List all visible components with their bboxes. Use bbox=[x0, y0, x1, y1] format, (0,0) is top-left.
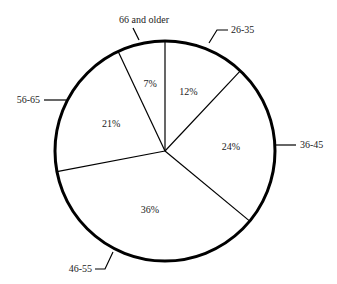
category-label: 46-55 bbox=[69, 263, 92, 274]
category-label: 66 and older bbox=[119, 14, 170, 25]
slice-percentage-label: 7% bbox=[143, 78, 156, 89]
category-label: 36-45 bbox=[300, 139, 323, 150]
slice-percentage-label: 21% bbox=[102, 118, 120, 129]
category-label: 26-35 bbox=[231, 24, 254, 35]
slice-percentage-label: 36% bbox=[141, 204, 159, 215]
slice-percentage-label: 24% bbox=[222, 141, 240, 152]
callout-line bbox=[209, 30, 228, 43]
category-label: 56-65 bbox=[17, 94, 40, 105]
callout-line bbox=[133, 28, 139, 40]
slice-percentage-label: 12% bbox=[179, 86, 197, 97]
pie-chart: 12%24%36%21%7%26-3536-4546-5556-6566 and… bbox=[0, 0, 337, 284]
callout-line bbox=[95, 252, 113, 269]
